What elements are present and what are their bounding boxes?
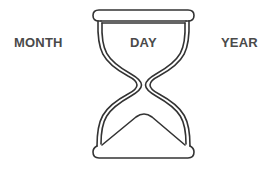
month-label: MONTH [14,35,63,50]
day-label: DAY [130,35,157,50]
sand-pile [102,114,185,145]
bottom-cap [93,146,194,158]
hourglass-icon [0,0,275,171]
top-cap [93,10,194,21]
year-label: YEAR [221,35,258,50]
